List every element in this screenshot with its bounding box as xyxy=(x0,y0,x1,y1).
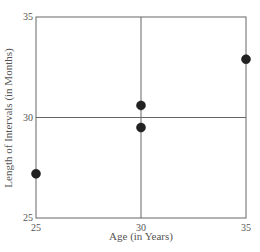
y-axis-label: Length of Intervals (in Months) xyxy=(2,48,15,188)
scatter-chart: 253035253035 Age (in Years) Length of In… xyxy=(0,0,260,252)
data-point xyxy=(32,169,41,178)
tick-labels: 253035253035 xyxy=(23,11,251,233)
x-tick-label: 25 xyxy=(31,222,41,233)
x-axis-label: Age (in Years) xyxy=(109,230,173,243)
x-tick-label: 35 xyxy=(241,222,251,233)
plot-frame xyxy=(36,17,246,218)
y-tick-label: 35 xyxy=(23,11,33,22)
data-point xyxy=(137,101,146,110)
y-tick-label: 30 xyxy=(23,112,33,123)
data-point xyxy=(242,55,251,64)
data-point xyxy=(137,123,146,132)
